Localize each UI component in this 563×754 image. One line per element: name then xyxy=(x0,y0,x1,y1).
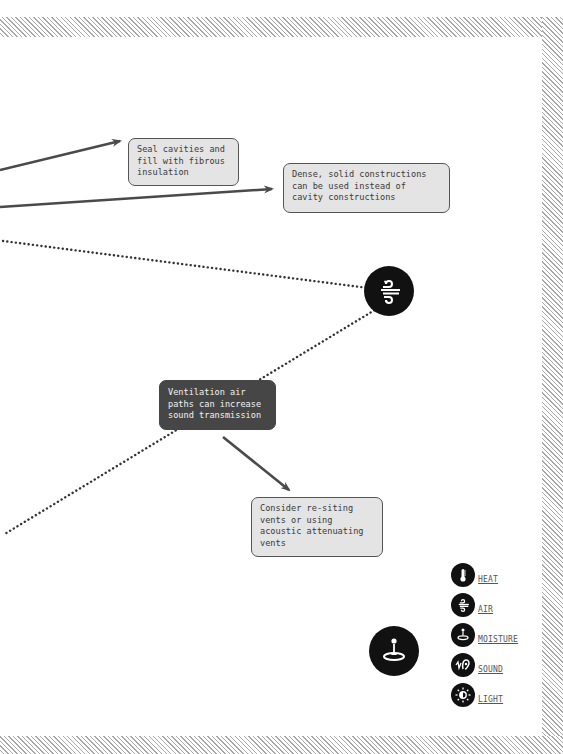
heat-icon xyxy=(451,563,475,587)
arrow-to-resite-vents xyxy=(223,437,289,490)
moisture-icon xyxy=(451,623,475,647)
moisture-node[interactable] xyxy=(369,626,419,676)
air-icon xyxy=(372,274,406,308)
note-ventilation-air-paths: Ventilation air paths can increase sound… xyxy=(159,380,276,430)
legend-item-sound[interactable]: SOUND xyxy=(451,650,518,680)
legend-label-sound[interactable]: SOUND xyxy=(478,665,503,674)
legend-label-air[interactable]: AIR xyxy=(478,605,493,614)
note-seal-cavities: Seal cavities and fill with fibrous insu… xyxy=(128,138,239,186)
legend-item-heat[interactable]: HEAT xyxy=(451,560,518,590)
note-resite-vents: Consider re-siting vents or using acoust… xyxy=(251,497,383,557)
legend-item-air[interactable]: AIR xyxy=(451,590,518,620)
legend-label-moisture[interactable]: MOISTURE xyxy=(478,635,518,644)
arrow-to-seal-cavities xyxy=(0,141,120,170)
arrow-to-dense-solid xyxy=(0,189,272,207)
legend-item-light[interactable]: LIGHT xyxy=(451,680,518,710)
note-dense-solid-constructions: Dense, solid constructions can be used i… xyxy=(283,163,450,213)
sound-icon xyxy=(451,653,475,677)
legend-label-heat[interactable]: HEAT xyxy=(478,575,498,584)
moisture-icon xyxy=(376,633,412,669)
air-icon xyxy=(451,593,475,617)
legend: HEAT AIR MOISTURE xyxy=(451,560,518,710)
legend-label-light[interactable]: LIGHT xyxy=(478,695,503,704)
dotted-link-to-air xyxy=(3,241,368,288)
legend-item-moisture[interactable]: MOISTURE xyxy=(451,620,518,650)
light-icon xyxy=(451,683,475,707)
air-node[interactable] xyxy=(364,266,414,316)
